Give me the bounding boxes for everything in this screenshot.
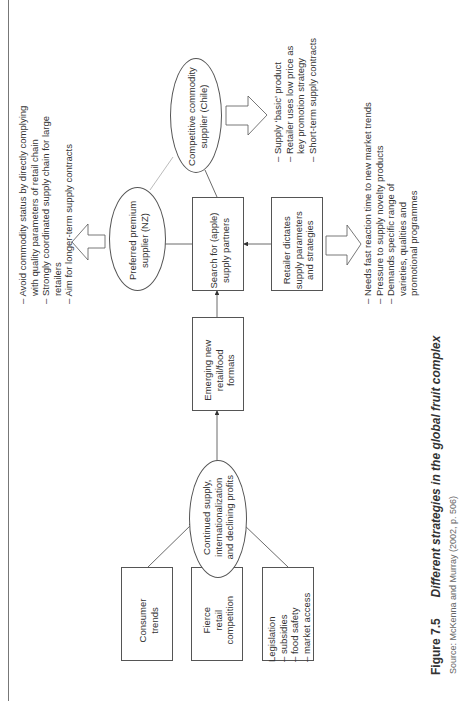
ellipse-label: Preferred premium supplier (NZ): [127, 193, 150, 289]
search-supply-partners-box: Search for (apple) supply partners: [192, 197, 244, 291]
figure-number: Figure 7.5: [429, 618, 443, 675]
preferred-premium-supplier-ellipse: Preferred premium supplier (NZ): [109, 187, 166, 291]
box-label: Emerging new retail/food formats: [202, 323, 237, 417]
driver-label: Fierce retail competition: [201, 573, 236, 667]
note-line: – Retailer uses low price as: [284, 38, 296, 162]
driver-label: Legislation – subsidies – food safety – …: [266, 568, 312, 662]
note-line: – Aim for longer-term supply contracts: [63, 106, 75, 304]
retailer-notes: – Needs fast reaction time to new market…: [362, 102, 420, 304]
continued-supply-ellipse: Continued supply, internationalization a…: [189, 460, 247, 578]
ellipse-label: Continued supply, internationalization a…: [201, 457, 236, 577]
retailer-dictates-box: Retailer dictates supply parameters and …: [271, 197, 323, 291]
figure-caption: Figure 7.5 Different strategies in the g…: [426, 336, 444, 675]
driver-consumer-trends: Consumer trends: [121, 567, 173, 661]
ellipse-label: Competitive commodity supplier (Chile): [186, 58, 209, 176]
note-line: – Pressure to supply novelty products: [374, 102, 386, 304]
figure-source: Source: McKenna and Murray (2002, p. 506…: [448, 496, 458, 674]
note-line: – Demands specific range of: [385, 102, 397, 304]
emerging-formats-box: Emerging new retail/food formats: [192, 317, 244, 411]
note-line: retailers: [52, 106, 64, 304]
box-label: Search for (apple) supply partners: [208, 204, 231, 298]
box-label: Retailer dictates supply parameters and …: [281, 203, 316, 297]
note-line: – Supply ‘basic’ product: [272, 38, 284, 162]
note-line: with quality parameters of retail chain: [29, 106, 41, 304]
figure-title: Different strategies in the global fruit…: [429, 336, 443, 598]
note-line: promotional programmes: [408, 102, 420, 304]
note-line: – Avoid commodity status by directly com…: [17, 106, 29, 304]
commodity-notes: – Supply ‘basic’ product – Retailer uses…: [272, 38, 318, 162]
note-line: key promotion strategy: [295, 38, 307, 162]
driver-fierce-retail-competition: Fierce retail competition: [191, 567, 243, 661]
premium-notes: – Avoid commodity status by directly com…: [17, 106, 75, 304]
competitive-commodity-supplier-ellipse: Competitive commodity supplier (Chile): [170, 58, 222, 173]
driver-legislation: Legislation – subsidies – food safety – …: [262, 567, 314, 661]
note-line: – Needs fast reaction time to new market…: [362, 102, 374, 304]
note-line: varieties, qualities and: [397, 102, 409, 304]
note-line: – Short-term supply contracts: [307, 38, 319, 162]
note-line: – Strongly coordinated supply chain for …: [40, 106, 52, 304]
driver-label: Consumer trends: [137, 574, 160, 668]
